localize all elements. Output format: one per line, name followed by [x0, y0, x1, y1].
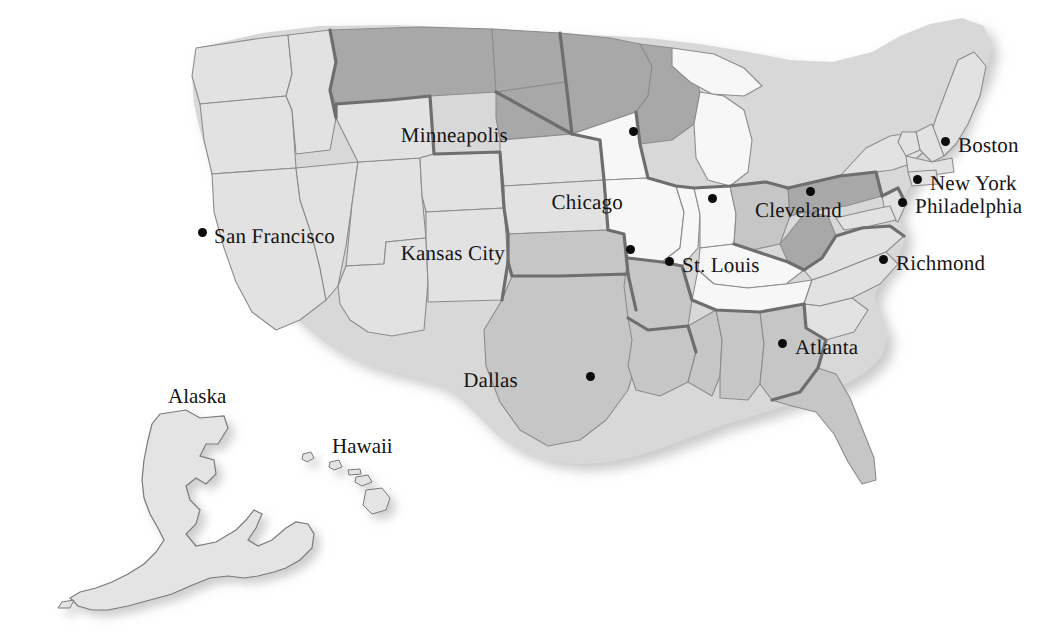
- state-north-dakota: [492, 29, 566, 92]
- state-oregon: [200, 96, 296, 174]
- city-label[interactable]: Boston: [958, 135, 1019, 156]
- city-label[interactable]: St. Louis: [682, 255, 760, 276]
- city-dot[interactable]: [586, 372, 595, 381]
- state-colorado: [420, 152, 504, 212]
- city-label[interactable]: San Francisco: [214, 226, 335, 247]
- city-dot[interactable]: [913, 175, 922, 184]
- city-dot[interactable]: [198, 228, 207, 237]
- city-dot[interactable]: [665, 257, 674, 266]
- city-dot[interactable]: [629, 127, 638, 136]
- city-label[interactable]: Dallas: [463, 370, 518, 391]
- city-dot[interactable]: [941, 137, 950, 146]
- city-label[interactable]: Cleveland: [755, 200, 842, 221]
- city-dot[interactable]: [806, 187, 815, 196]
- state-oklahoma: [508, 230, 628, 276]
- city-dot[interactable]: [626, 245, 635, 254]
- city-label[interactable]: Minneapolis: [401, 125, 508, 146]
- state-montana: [330, 27, 496, 104]
- city-dot[interactable]: [778, 339, 787, 348]
- city-label[interactable]: Chicago: [552, 192, 623, 213]
- inset-label-alaska: Alaska: [168, 386, 226, 407]
- state-nebraska: [500, 134, 604, 186]
- hawaii-island-molokai: [348, 469, 361, 475]
- city-label[interactable]: Philadelphia: [915, 196, 1022, 217]
- city-label[interactable]: New York: [930, 173, 1017, 194]
- inset-label-hawaii: Hawaii: [332, 436, 393, 457]
- city-dot[interactable]: [879, 255, 888, 264]
- city-label[interactable]: Kansas City: [401, 243, 505, 264]
- state-alabama: [716, 310, 764, 400]
- city-label[interactable]: Richmond: [896, 253, 985, 274]
- city-label[interactable]: Atlanta: [795, 337, 858, 358]
- city-dot[interactable]: [708, 194, 717, 203]
- city-dot[interactable]: [898, 198, 907, 207]
- us-map-svg: [0, 0, 1050, 639]
- us-map-figure: MinneapolisBostonChicagoNew YorkClevelan…: [0, 0, 1050, 639]
